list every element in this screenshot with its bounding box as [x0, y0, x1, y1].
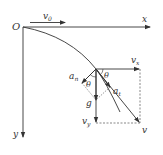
y-axis-label: y [12, 129, 19, 139]
dashed-at-to-g [96, 87, 110, 100]
gravity-label: g [86, 98, 92, 108]
angle-arc-top [101, 69, 104, 75]
trajectory-curve [23, 27, 120, 112]
angle-top-label: θ [104, 71, 109, 80]
tangential-accel-label: at [113, 86, 121, 97]
angle-arc-left [91, 75, 97, 77]
x-axis-label: x [142, 14, 147, 24]
vx-label: vx [131, 55, 140, 66]
normal-accel-label: an [69, 71, 78, 82]
diagram-canvas: O x y v0 vx vy v an at g θ θ [0, 0, 163, 155]
vy-label: vy [82, 116, 91, 128]
angle-left-label: θ [86, 80, 91, 89]
initial-velocity-label: v0 [43, 11, 52, 22]
velocity-label: v [142, 125, 147, 135]
origin-label: O [12, 21, 20, 32]
projectile-diagram: O x y v0 vx vy v an at g θ θ [0, 0, 163, 155]
